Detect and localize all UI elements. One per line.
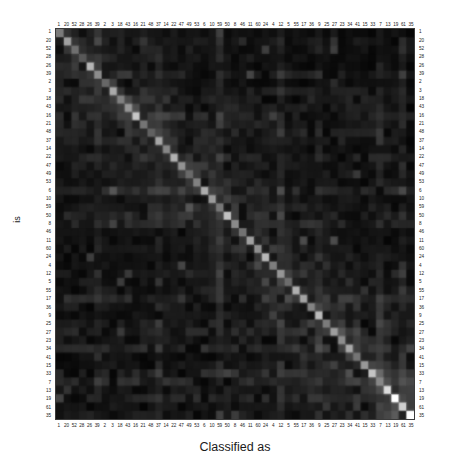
left-axis-tick-labels: 1205228263923184316214837142247495361059… xyxy=(36,28,53,420)
bottom-axis-tick: 61 xyxy=(400,423,408,429)
left-axis-tick: 9 xyxy=(36,312,53,320)
bottom-axis-tick: 37 xyxy=(155,423,163,429)
left-axis-tick: 52 xyxy=(36,45,53,53)
left-axis-tick: 59 xyxy=(36,203,53,211)
left-axis-tick: 47 xyxy=(36,162,53,170)
right-axis-tick: 53 xyxy=(417,178,434,186)
left-axis-tick: 14 xyxy=(36,145,53,153)
left-axis-tick: 55 xyxy=(36,287,53,295)
bottom-axis-tick: 22 xyxy=(170,423,178,429)
left-axis-tick: 1 xyxy=(36,28,53,36)
left-axis-tick: 26 xyxy=(36,61,53,69)
right-axis-tick: 50 xyxy=(417,212,434,220)
bottom-axis-tick: 26 xyxy=(86,423,94,429)
right-axis-tick: 10 xyxy=(417,195,434,203)
left-axis-tick: 33 xyxy=(36,370,53,378)
left-axis-tick: 11 xyxy=(36,237,53,245)
right-axis-tick: 8 xyxy=(417,220,434,228)
left-axis-tick: 6 xyxy=(36,187,53,195)
right-axis-tick: 26 xyxy=(417,61,434,69)
bottom-axis-tick-labels: 1205228263923184316214837142247495361059… xyxy=(55,423,415,434)
right-axis-tick: 23 xyxy=(417,337,434,345)
bottom-axis-tick: 4 xyxy=(269,423,277,429)
confusion-matrix-heatmap xyxy=(56,29,414,419)
right-axis-tick: 17 xyxy=(417,295,434,303)
right-axis-tick: 4 xyxy=(417,262,434,270)
bottom-axis-tick: 20 xyxy=(63,423,71,429)
bottom-axis-tick: 9 xyxy=(315,423,323,429)
bottom-axis-tick: 12 xyxy=(277,423,285,429)
left-axis-tick: 17 xyxy=(36,295,53,303)
bottom-axis-tick: 35 xyxy=(407,423,415,429)
left-axis-tick: 8 xyxy=(36,220,53,228)
left-axis-tick: 7 xyxy=(36,378,53,386)
right-axis-tick: 5 xyxy=(417,278,434,286)
left-axis-tick: 41 xyxy=(36,353,53,361)
bottom-axis-tick: 43 xyxy=(124,423,132,429)
left-axis-tick: 53 xyxy=(36,178,53,186)
bottom-axis-tick: 1 xyxy=(55,423,63,429)
bottom-axis-tick: 14 xyxy=(162,423,170,429)
left-axis-tick: 49 xyxy=(36,170,53,178)
bottom-axis-tick: 16 xyxy=(132,423,140,429)
right-axis-tick: 61 xyxy=(417,403,434,411)
right-axis-tick-labels: 1205228263923184316214837142247495361059… xyxy=(417,28,434,420)
bottom-axis-tick: 7 xyxy=(377,423,385,429)
confusion-matrix-figure: 1205228263923184316214837142247495361059… xyxy=(0,0,470,474)
bottom-axis-tick: 49 xyxy=(185,423,193,429)
right-axis-tick: 60 xyxy=(417,245,434,253)
bottom-axis-tick: 46 xyxy=(239,423,247,429)
left-axis-tick: 46 xyxy=(36,228,53,236)
left-axis-tick: 13 xyxy=(36,387,53,395)
left-axis-tick: 25 xyxy=(36,320,53,328)
bottom-axis-tick: 10 xyxy=(208,423,216,429)
bottom-axis-tick: 17 xyxy=(300,423,308,429)
bottom-axis-tick: 23 xyxy=(338,423,346,429)
left-axis-tick: 48 xyxy=(36,128,53,136)
right-axis-tick: 21 xyxy=(417,120,434,128)
right-axis-tick: 25 xyxy=(417,320,434,328)
left-axis-tick: 21 xyxy=(36,120,53,128)
right-axis-tick: 47 xyxy=(417,162,434,170)
right-axis-tick: 41 xyxy=(417,353,434,361)
bottom-axis-tick: 48 xyxy=(147,423,155,429)
left-axis-tick: 20 xyxy=(36,36,53,44)
bottom-axis-tick: 52 xyxy=(70,423,78,429)
left-axis-tick: 43 xyxy=(36,103,53,111)
left-axis-tick: 12 xyxy=(36,270,53,278)
left-axis-tick: 18 xyxy=(36,95,53,103)
left-axis-tick: 4 xyxy=(36,262,53,270)
left-axis-tick: 60 xyxy=(36,245,53,253)
bottom-axis-tick: 24 xyxy=(262,423,270,429)
left-axis-tick: 3 xyxy=(36,86,53,94)
bottom-axis-tick: 8 xyxy=(231,423,239,429)
bottom-axis-tick: 34 xyxy=(346,423,354,429)
bottom-axis-tick: 27 xyxy=(331,423,339,429)
left-axis-tick: 37 xyxy=(36,136,53,144)
right-axis-tick: 46 xyxy=(417,228,434,236)
bottom-axis-tick: 55 xyxy=(292,423,300,429)
bottom-axis-tick: 60 xyxy=(254,423,262,429)
y-axis-title: is xyxy=(12,205,23,235)
right-axis-tick: 27 xyxy=(417,328,434,336)
left-axis-tick: 5 xyxy=(36,278,53,286)
left-axis-tick: 16 xyxy=(36,111,53,119)
right-axis-tick: 9 xyxy=(417,312,434,320)
right-axis-tick: 55 xyxy=(417,287,434,295)
bottom-axis-tick: 39 xyxy=(93,423,101,429)
left-axis-tick: 23 xyxy=(36,337,53,345)
right-axis-tick: 34 xyxy=(417,345,434,353)
bottom-axis-tick: 41 xyxy=(354,423,362,429)
bottom-axis-tick: 3 xyxy=(109,423,117,429)
bottom-axis-tick: 21 xyxy=(139,423,147,429)
left-axis-tick: 35 xyxy=(36,412,53,420)
bottom-axis-tick: 18 xyxy=(116,423,124,429)
right-axis-tick: 59 xyxy=(417,203,434,211)
bottom-axis-tick: 5 xyxy=(285,423,293,429)
bottom-axis-tick: 36 xyxy=(308,423,316,429)
bottom-axis-tick: 50 xyxy=(223,423,231,429)
left-axis-tick: 15 xyxy=(36,362,53,370)
left-axis-tick: 24 xyxy=(36,253,53,261)
right-axis-tick: 19 xyxy=(417,395,434,403)
bottom-axis-tick: 25 xyxy=(323,423,331,429)
